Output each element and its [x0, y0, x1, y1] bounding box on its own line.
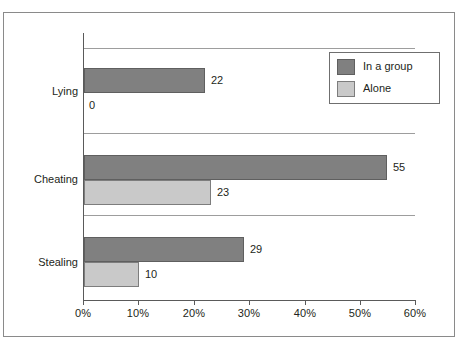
bar-stealing-in-a-group[interactable]: [84, 237, 244, 262]
chart-legend: In a group Alone: [329, 52, 440, 104]
tick-label-10: 10%: [115, 307, 161, 319]
gridline-cheating-stealing: [84, 215, 415, 216]
tickmark-0: [83, 300, 84, 305]
tick-label-20: 20%: [171, 307, 217, 319]
bar-value-cheating-alone: 23: [217, 186, 229, 198]
category-label-cheating: Cheating: [34, 173, 78, 185]
legend-swatch-in-a-group: [337, 59, 355, 75]
tickmark-30: [249, 300, 250, 305]
category-label-stealing: Stealing: [38, 256, 78, 268]
bar-value-lying-alone: 0: [89, 99, 95, 111]
tickmark-20: [194, 300, 195, 305]
tickmark-60: [415, 300, 416, 305]
tickmark-50: [360, 300, 361, 305]
bar-stealing-alone[interactable]: [84, 262, 139, 287]
legend-label-alone: Alone: [363, 82, 391, 94]
bar-cheating-alone[interactable]: [84, 180, 211, 205]
tick-label-40: 40%: [282, 307, 328, 319]
chart-figure: Lying Cheating Stealing 22 0 55 23 29 10…: [0, 0, 470, 347]
tick-label-0: 0%: [60, 307, 106, 319]
bar-lying-in-a-group[interactable]: [84, 68, 205, 93]
gridline-lying-cheating: [84, 133, 415, 134]
tickmark-10: [138, 300, 139, 305]
tick-label-50: 50%: [337, 307, 383, 319]
tick-label-60: 60%: [392, 307, 438, 319]
bar-value-stealing-alone: 10: [145, 268, 157, 280]
bar-value-cheating-in-a-group: 55: [393, 161, 405, 173]
bar-value-stealing-in-a-group: 29: [250, 243, 262, 255]
gridline-top: [84, 48, 415, 49]
category-label-lying: Lying: [52, 85, 78, 97]
tick-label-30: 30%: [226, 307, 272, 319]
legend-swatch-alone: [337, 81, 355, 97]
category-axis-labels: Lying Cheating Stealing: [0, 0, 78, 347]
tickmark-40: [305, 300, 306, 305]
legend-label-in-a-group: In a group: [363, 60, 413, 72]
bar-cheating-in-a-group[interactable]: [84, 155, 387, 180]
bar-value-lying-in-a-group: 22: [211, 74, 223, 86]
